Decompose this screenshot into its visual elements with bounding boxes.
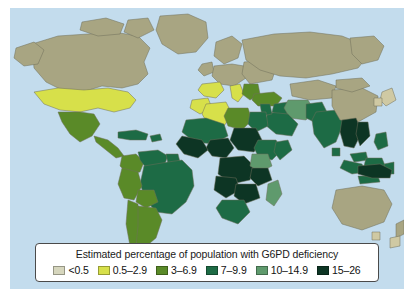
region-sri-lanka — [332, 148, 340, 156]
legend-swatch-5 — [317, 266, 329, 275]
legend-item-4[interactable]: 10–14.9 — [256, 264, 308, 276]
legend-label-4: 10–14.9 — [271, 264, 308, 276]
legend-swatch-2 — [156, 266, 168, 275]
legend-swatch-4 — [256, 266, 268, 275]
legend-title: Estimated percentage of population with … — [42, 248, 372, 261]
g6pd-world-map-figure: Estimated percentage of population with … — [0, 0, 414, 297]
legend-item-5[interactable]: 15–26 — [317, 264, 361, 276]
legend-item-1[interactable]: 0.5–2.9 — [98, 264, 147, 276]
legend-item-2[interactable]: 3–6.9 — [156, 264, 197, 276]
legend-item-0[interactable]: <0.5 — [53, 264, 88, 276]
legend-label-3: 7–9.9 — [221, 264, 247, 276]
legend-items: <0.5 0.5–2.9 3–6.9 7–9.9 10–14.9 15–26 — [42, 264, 372, 276]
region-tasmania — [372, 232, 380, 240]
legend-label-1: 0.5–2.9 — [113, 264, 147, 276]
legend-label-5: 15–26 — [332, 264, 361, 276]
legend-label-0: <0.5 — [68, 264, 88, 276]
region-korea — [374, 98, 382, 106]
map-legend: Estimated percentage of population with … — [35, 243, 379, 282]
legend-swatch-1 — [98, 266, 110, 275]
legend-swatch-0 — [53, 266, 65, 275]
legend-swatch-3 — [206, 266, 218, 275]
legend-item-3[interactable]: 7–9.9 — [206, 264, 247, 276]
legend-label-2: 3–6.9 — [171, 264, 197, 276]
region-canada — [32, 32, 150, 92]
region-new-zealand-2 — [390, 236, 400, 248]
